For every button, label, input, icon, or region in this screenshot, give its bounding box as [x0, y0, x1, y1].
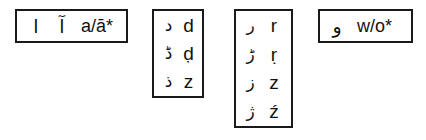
letter-row: و w/o*: [320, 11, 411, 41]
diagram-canvas: ا آ a/ā* د d ڈ ḍ ذ z ر r ڑ ṛ ز z: [0, 0, 426, 140]
letter-row: ڈ ḍ: [154, 39, 202, 67]
letter-row: ر r: [236, 11, 291, 40]
transliteration-label: d: [179, 16, 198, 35]
script-glyph: آ: [49, 17, 75, 36]
script-glyph: و: [327, 17, 347, 36]
transliteration-label: ḍ: [179, 44, 198, 63]
script-glyph: ژ: [240, 103, 261, 120]
letter-row: ز z: [236, 69, 291, 98]
script-glyph: ڑ: [240, 46, 261, 63]
script-glyph: ڈ: [158, 45, 179, 62]
letter-box-2: د d ڈ ḍ ذ z: [152, 9, 204, 98]
transliteration-label: z: [261, 73, 287, 92]
letter-row: ذ z: [154, 68, 202, 96]
letter-box-1: ا آ a/ā*: [15, 9, 128, 43]
transliteration-label: z: [179, 72, 198, 91]
letter-row: ڑ ṛ: [236, 40, 291, 69]
script-glyph: ر: [240, 17, 261, 34]
script-glyph: د: [158, 17, 179, 34]
script-glyph: ا: [23, 17, 49, 36]
letter-row: ژ ź: [236, 97, 291, 126]
letter-row: د d: [154, 11, 202, 39]
transliteration-label: ź: [261, 102, 287, 121]
transliteration-label: r: [261, 16, 287, 35]
transliteration-label: ṛ: [261, 45, 287, 64]
script-glyph: ذ: [158, 73, 179, 90]
letter-box-3: ر r ڑ ṛ ز z ژ ź: [234, 9, 293, 128]
script-glyph: ز: [240, 74, 261, 91]
letter-box-4: و w/o*: [318, 9, 413, 43]
letter-row: ا آ a/ā*: [17, 11, 126, 41]
transliteration-label: a/ā*: [81, 17, 113, 35]
transliteration-label: w/o*: [357, 17, 392, 35]
